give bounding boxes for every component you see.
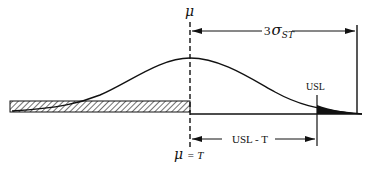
- svg-text:μ= T: μ= T: [174, 146, 204, 162]
- three-sigma-dimension: 3σST: [192, 21, 355, 40]
- usl-minus-t-dimension: USL - T: [192, 133, 315, 145]
- usl-label: USL: [306, 81, 325, 92]
- three-sigma-label: 3σST: [264, 21, 295, 40]
- mu-equals-t-label: μ= T: [174, 146, 204, 162]
- diagram-canvas: 3σST USL - T μ USL μ= T: [0, 0, 367, 171]
- mu-top-label: μ: [185, 3, 194, 19]
- tail-area: [317, 105, 362, 114]
- usl-minus-t-label: USL - T: [232, 133, 268, 145]
- hatched-bar: [10, 101, 190, 112]
